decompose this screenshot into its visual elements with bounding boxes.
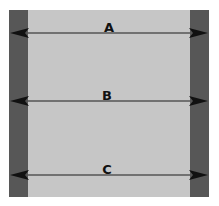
label-b: B xyxy=(97,89,117,102)
label-a: A xyxy=(99,21,119,34)
label-c: C xyxy=(97,163,117,176)
